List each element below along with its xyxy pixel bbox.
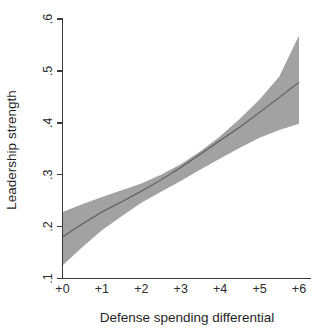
x-axis-tick-label: +0 — [55, 282, 69, 296]
x-axis-tick-labels: +0+1+2+3+4+5+6 — [55, 282, 306, 296]
x-axis-tick-label: +6 — [292, 282, 306, 296]
chart-figure: .1.2.3.4.5.6 +0+1+2+3+4+5+6 Leadership s… — [0, 0, 327, 335]
x-axis-title: Defense spending differential — [100, 310, 275, 325]
x-axis-tick-label: +5 — [252, 282, 266, 296]
x-axis-tick-label: +4 — [213, 282, 227, 296]
y-axis-tick-label: .1 — [41, 273, 55, 283]
y-axis-title: Leadership strength — [4, 90, 19, 209]
y-axis-ticks — [57, 19, 63, 279]
chart-plot-area: .1.2.3.4.5.6 +0+1+2+3+4+5+6 Leadership s… — [0, 0, 327, 335]
y-axis-tick-label: .3 — [41, 169, 55, 179]
y-axis-tick-labels: .1.2.3.4.5.6 — [41, 14, 55, 284]
x-axis-tick-label: +3 — [174, 282, 188, 296]
y-axis-tick-label: .5 — [41, 66, 55, 76]
x-axis-tick-label: +2 — [134, 282, 148, 296]
confidence-interval-band — [63, 36, 300, 266]
y-axis-tick-label: .4 — [41, 118, 55, 128]
y-axis-tick-label: .6 — [41, 14, 55, 24]
y-axis-tick-label: .2 — [41, 221, 55, 231]
x-axis-tick-label: +1 — [95, 282, 109, 296]
